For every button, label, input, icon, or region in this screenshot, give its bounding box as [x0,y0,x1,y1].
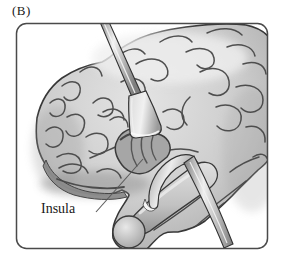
brain-illustration [0,0,283,271]
figure-panel: (B) [0,0,283,271]
insula-label: Insula [41,201,75,217]
